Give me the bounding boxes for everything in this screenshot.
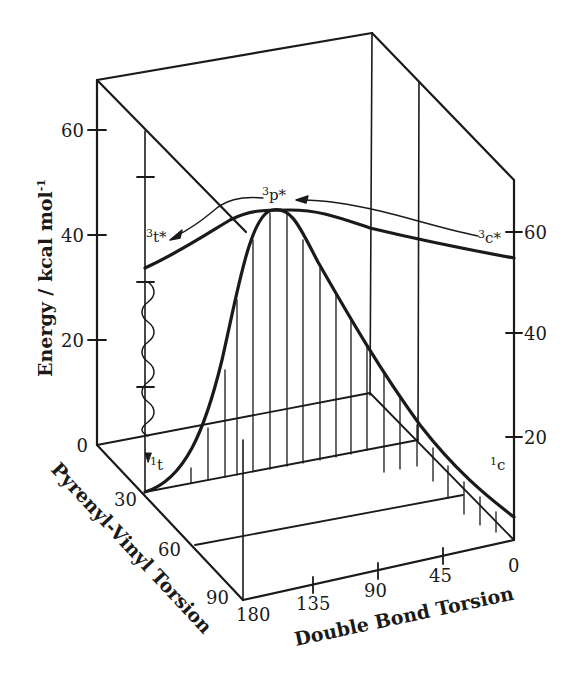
- pyrenyl-tick-30: 30: [114, 489, 137, 510]
- double-tick-45: 45: [429, 565, 452, 586]
- left-tick-60: 60: [61, 120, 84, 141]
- triplet-curve: [145, 210, 514, 268]
- right-tick-60: 60: [524, 222, 547, 243]
- left-tick-40: 40: [61, 225, 84, 246]
- double-tick-90: 90: [364, 580, 387, 601]
- state-label-3c: 3c*: [478, 228, 501, 247]
- right-tick-20: 20: [524, 427, 547, 448]
- left-tick-20: 20: [61, 330, 84, 351]
- right-tick-40: 40: [524, 323, 547, 344]
- double-tick-135: 135: [296, 593, 330, 614]
- state-label-3t: 3t*: [146, 227, 167, 246]
- energy-surface-diagram: Energy / kcal mol-1 60 40 20 0 60 40 20 …: [0, 0, 578, 678]
- box-frame: [97, 33, 514, 600]
- energy-axis-title: Energy / kcal mol-1: [34, 179, 56, 377]
- pyrenyl-axis-title: Pyrenyl-Vinyl Torsion: [47, 458, 217, 638]
- isc-wavy-line: [142, 282, 154, 436]
- state-label-1t: 1t: [150, 455, 163, 474]
- singlet-hatching: [191, 212, 496, 532]
- inner-verticals: [145, 33, 419, 600]
- double-tick-180: 180: [236, 604, 270, 625]
- pyrenyl-tick-60: 60: [158, 539, 181, 560]
- left-tick-0: 0: [77, 435, 88, 456]
- diagram-canvas: Energy / kcal mol-1 60 40 20 0 60 40 20 …: [0, 0, 578, 678]
- state-label-1c: 1c: [490, 455, 505, 474]
- double-tick-0: 0: [508, 555, 519, 576]
- state-label-3p: 3p*: [262, 185, 287, 204]
- pyrenyl-tick-90: 90: [206, 587, 229, 608]
- singlet-curve: [145, 210, 514, 517]
